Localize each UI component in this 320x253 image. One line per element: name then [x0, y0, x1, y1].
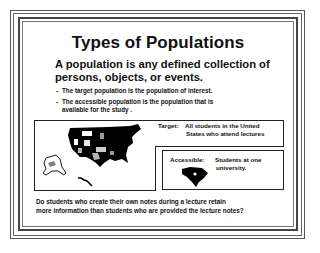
- bullet-target-population: - The target population is the populatio…: [62, 87, 282, 95]
- bullet-text-line-2: available for the study .: [62, 106, 282, 114]
- accessible-text-line-1: Students at one: [215, 156, 261, 163]
- bullet-text-line-1: The accessible population is the populat…: [62, 98, 282, 106]
- research-question: Do students who create their own notes d…: [36, 197, 296, 216]
- target-box-right-border: [283, 120, 284, 146]
- slide-title: Types of Populations: [22, 33, 294, 53]
- definition-line-1: A population is any defined collection o…: [55, 58, 285, 71]
- target-population-description: Target:All students in the United States…: [158, 122, 282, 139]
- question-line-2: more information than students who are p…: [36, 206, 296, 215]
- question-line-1: Do students who create their own notes d…: [36, 197, 296, 206]
- population-definition: A population is any defined collection o…: [55, 58, 285, 83]
- accessible-label: Accessible:: [170, 156, 215, 164]
- target-text-line-2: States who attend lectures: [158, 130, 282, 138]
- target-label: Target:: [158, 122, 185, 130]
- bullet-dash: -: [56, 87, 58, 95]
- target-text-line-1: All students in the United: [185, 122, 260, 129]
- bullet-accessible-population: - The accessible population is the popul…: [62, 98, 282, 114]
- target-box-bottom-border: [156, 146, 284, 147]
- definition-line-2: persons, objects, or events.: [55, 71, 285, 84]
- south-carolina-map-icon: [180, 166, 210, 188]
- usa-map-icon: [40, 123, 155, 189]
- bullet-dash: -: [56, 98, 58, 106]
- bullet-text: The target population is the population …: [62, 87, 282, 95]
- map-box-right-border: [155, 146, 156, 191]
